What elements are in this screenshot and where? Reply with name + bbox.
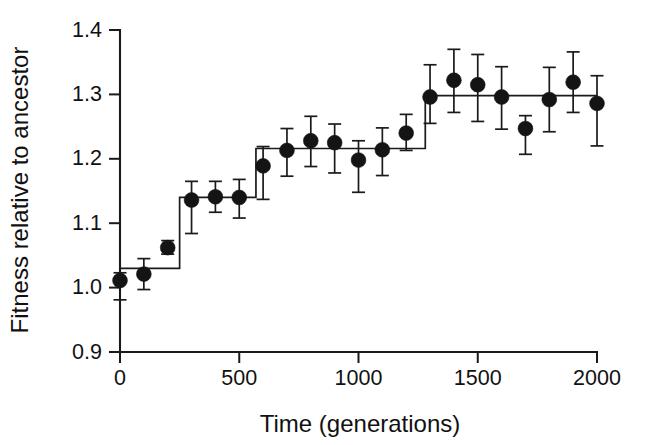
data-point-marker bbox=[470, 77, 485, 92]
y-tick-labels: 0.91.01.11.21.31.4 bbox=[72, 18, 102, 364]
x-tick-label-1000: 1000 bbox=[335, 366, 383, 390]
data-point-marker bbox=[208, 189, 223, 204]
fitness-chart-figure: Fitness relative to ancestor Time (gener… bbox=[0, 0, 672, 445]
x-tick-label-1500: 1500 bbox=[454, 366, 502, 390]
x-axis-ticks bbox=[120, 352, 597, 363]
x-axis-title: Time (generations) bbox=[260, 410, 461, 437]
data-point-marker bbox=[542, 92, 557, 107]
data-point-marker bbox=[136, 267, 151, 282]
data-point-marker bbox=[494, 90, 509, 105]
data-point-marker bbox=[232, 190, 247, 205]
data-point-marker bbox=[375, 142, 390, 157]
y-tick-label-1.2: 1.2 bbox=[72, 146, 102, 170]
y-tick-label-0.9: 0.9 bbox=[72, 340, 102, 364]
data-point-marker bbox=[280, 143, 295, 158]
y-axis-ticks bbox=[109, 30, 120, 352]
data-point-marker bbox=[184, 193, 199, 208]
data-point-marker bbox=[447, 73, 462, 88]
data-point-marker bbox=[590, 96, 605, 111]
data-point-marker bbox=[518, 121, 533, 136]
data-point-marker bbox=[423, 90, 438, 105]
y-tick-label-1.0: 1.0 bbox=[72, 275, 102, 299]
data-point-marker bbox=[303, 133, 318, 148]
x-tick-label-0: 0 bbox=[114, 366, 126, 390]
data-point-marker bbox=[327, 135, 342, 150]
data-point-marker bbox=[399, 126, 414, 141]
x-tick-labels: 0500100015002000 bbox=[114, 366, 621, 390]
data-point-marker bbox=[113, 273, 128, 288]
y-tick-label-1.4: 1.4 bbox=[72, 18, 102, 42]
y-tick-label-1.1: 1.1 bbox=[72, 211, 102, 235]
error-bars bbox=[114, 49, 604, 300]
x-tick-label-2000: 2000 bbox=[573, 366, 621, 390]
y-tick-label-1.3: 1.3 bbox=[72, 82, 102, 106]
y-axis-title: Fitness relative to ancestor bbox=[6, 47, 33, 334]
data-point-marker bbox=[256, 158, 271, 173]
data-point-marker bbox=[566, 75, 581, 90]
chart-canvas: Fitness relative to ancestor Time (gener… bbox=[0, 0, 672, 445]
data-point-marker bbox=[160, 240, 175, 255]
data-point-marker bbox=[351, 153, 366, 168]
x-tick-label-500: 500 bbox=[221, 366, 257, 390]
